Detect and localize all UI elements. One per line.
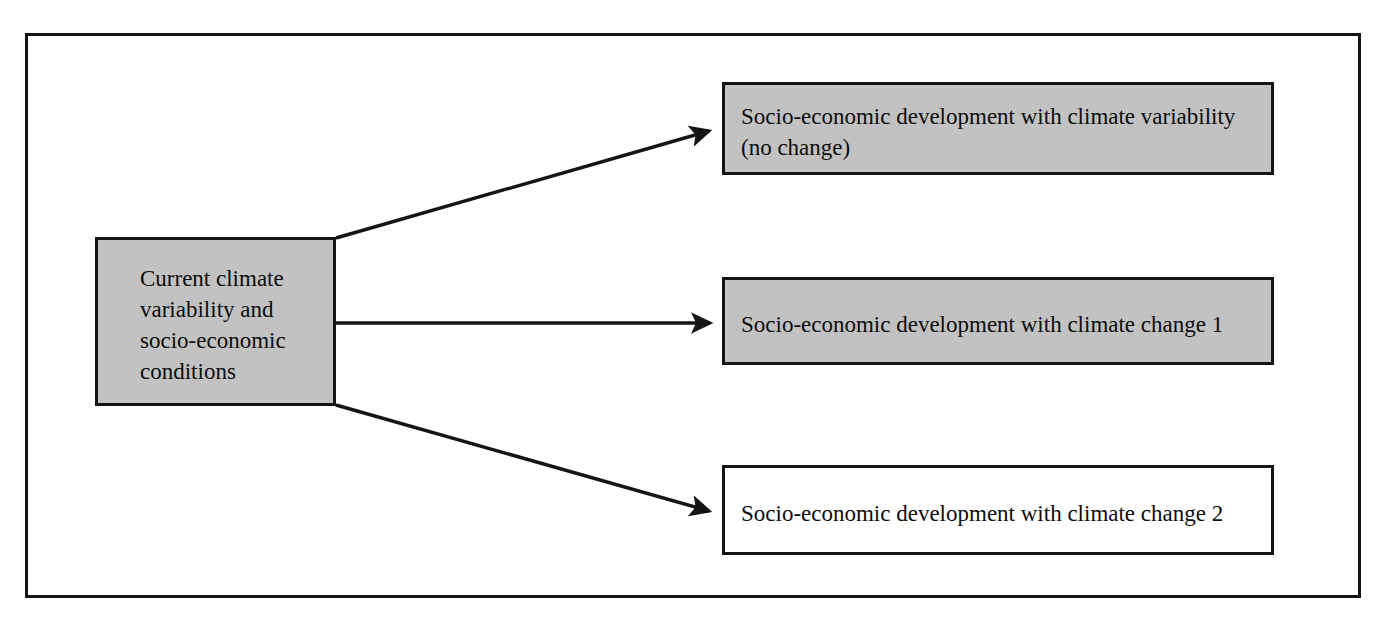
node-development-climate-change-1-label: Socio-economic development with climate … xyxy=(741,309,1269,340)
node-development-climate-change-1: Socio-economic development with climate … xyxy=(722,277,1274,365)
node-development-climate-change-2: Socio-economic development with climate … xyxy=(722,465,1274,555)
node-current-climate-conditions: Current climate variability and socio-ec… xyxy=(95,237,336,406)
node-development-climate-change-2-label: Socio-economic development with climate … xyxy=(741,498,1269,529)
figure-root: Current climate variability and socio-ec… xyxy=(0,0,1382,619)
node-development-no-change-label: Socio-economic development with climate … xyxy=(741,101,1269,163)
node-development-no-change: Socio-economic development with climate … xyxy=(722,82,1274,175)
node-current-climate-conditions-label: Current climate variability and socio-ec… xyxy=(140,263,330,387)
